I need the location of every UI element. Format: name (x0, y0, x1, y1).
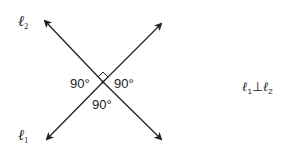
right-angle-marker (98, 72, 108, 77)
perpendicular-statement: ℓ1⊥ℓ2 (242, 80, 273, 96)
label-l1: ℓ1 (18, 128, 28, 145)
label-l2: ℓ2 (18, 14, 28, 31)
perpendicular-symbol: ⊥ (252, 79, 263, 94)
perpendicular-lines-diagram: ℓ2 ℓ1 90° 90° 90° ℓ1⊥ℓ2 (0, 0, 285, 150)
angle-bottom: 90° (92, 98, 112, 111)
lines-canvas (0, 0, 285, 150)
angle-right: 90° (114, 77, 134, 90)
angle-left: 90° (70, 77, 90, 90)
line-l2 (45, 21, 161, 139)
